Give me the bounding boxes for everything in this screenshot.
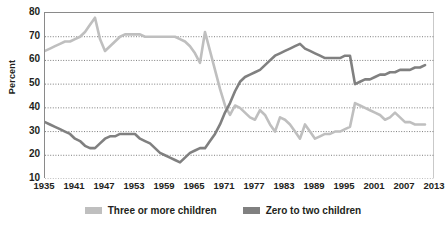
legend-item-0[interactable]: Three or more children [85, 205, 217, 216]
y-tick-40: 40 [16, 102, 40, 112]
y-tick-70: 70 [16, 31, 40, 41]
legend-swatch-icon [85, 207, 102, 214]
legend-label: Three or more children [108, 205, 217, 216]
series-line-zero-to-two-children [45, 44, 425, 163]
x-tick-1989: 1989 [303, 180, 324, 192]
chart-title-clipped [0, 0, 446, 7]
x-tick-1935: 1935 [33, 180, 54, 192]
x-tick-1959: 1959 [153, 180, 174, 192]
y-tick-60: 60 [16, 54, 40, 64]
legend-label: Zero to two children [266, 205, 362, 216]
x-tick-1947: 1947 [93, 180, 114, 192]
y-tick-30: 30 [16, 126, 40, 136]
x-tick-1971: 1971 [213, 180, 234, 192]
x-tick-2007: 2007 [393, 180, 414, 192]
x-tick-1977: 1977 [243, 180, 264, 192]
legend-item-1[interactable]: Zero to two children [243, 205, 362, 216]
x-tick-1941: 1941 [63, 180, 84, 192]
plot-area [44, 12, 434, 178]
y-tick-80: 80 [16, 7, 40, 17]
legend-swatch-icon [243, 207, 260, 214]
series-canvas [45, 13, 435, 179]
y-axis-tick-labels: 8070605040302010 [10, 0, 40, 190]
x-tick-1953: 1953 [123, 180, 144, 192]
x-axis-tick-labels: 1935194119471953195919651971197719831989… [44, 180, 434, 196]
x-tick-1965: 1965 [183, 180, 204, 192]
chart-legend: Three or more childrenZero to two childr… [0, 202, 446, 218]
y-tick-50: 50 [16, 78, 40, 88]
x-tick-2013: 2013 [423, 180, 444, 192]
y-tick-20: 20 [16, 149, 40, 159]
x-tick-2001: 2001 [363, 180, 384, 192]
line-chart: Percent 8070605040302010 193519411947195… [0, 0, 446, 233]
x-tick-1995: 1995 [333, 180, 354, 192]
x-tick-1983: 1983 [273, 180, 294, 192]
